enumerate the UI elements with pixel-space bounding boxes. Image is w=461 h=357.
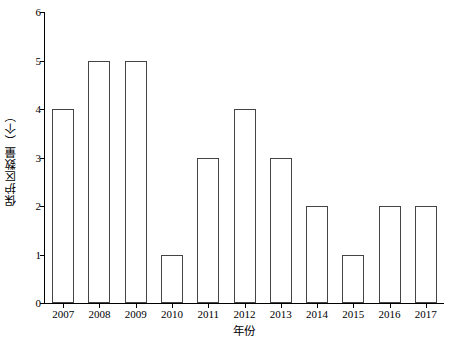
- bar: [161, 255, 183, 304]
- plot-area: 0123456200720082009201020112012201320142…: [44, 12, 444, 304]
- bar: [342, 255, 364, 304]
- bar: [88, 61, 110, 304]
- x-axis-tick-label: 2007: [52, 308, 74, 320]
- x-axis-tick-label: 2017: [415, 308, 437, 320]
- x-axis-tick-label: 2010: [161, 308, 183, 320]
- bar-chart: 保护区数量（个） 0123456200720082009201020112012…: [0, 0, 461, 357]
- x-axis-tick-label: 2008: [88, 308, 110, 320]
- y-axis-tick-label: 3: [36, 152, 42, 163]
- bar: [415, 206, 437, 303]
- bar-series: [45, 12, 444, 303]
- bar: [125, 61, 147, 304]
- x-axis-tick-label: 2014: [306, 308, 328, 320]
- x-axis-tick-label: 2009: [125, 308, 147, 320]
- bar: [306, 206, 328, 303]
- x-axis-tick-label: 2011: [197, 308, 219, 320]
- x-axis-title: 年份: [44, 324, 444, 338]
- y-axis-tick-label: 4: [36, 104, 42, 115]
- y-axis-tick-label: 2: [36, 201, 42, 212]
- y-axis-tick-label: 5: [36, 55, 42, 66]
- bar: [234, 109, 256, 303]
- x-axis-tick-label: 2013: [270, 308, 292, 320]
- x-axis-title-text: 年份: [233, 325, 255, 337]
- y-axis-tick-label: 1: [36, 249, 42, 260]
- x-axis-tick-label: 2012: [234, 308, 256, 320]
- x-axis-tick-label: 2016: [379, 308, 401, 320]
- y-axis-title: 保护区数量（个）: [2, 12, 20, 304]
- y-axis-title-text: 保护区数量（个）: [4, 110, 18, 206]
- bar: [197, 158, 219, 304]
- bar: [379, 206, 401, 303]
- y-axis-tick-label: 0: [36, 298, 42, 309]
- bar: [270, 158, 292, 304]
- x-axis-tick-label: 2015: [342, 308, 364, 320]
- bar: [52, 109, 74, 303]
- y-axis-tick-label: 6: [36, 7, 42, 18]
